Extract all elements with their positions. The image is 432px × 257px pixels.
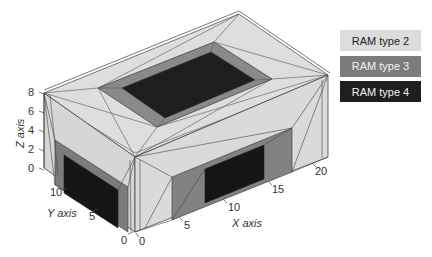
legend: RAM type 2 RAM type 3 RAM type 4 [340,30,421,107]
y-axis-label: Y axis [47,207,77,219]
x-tick-10: 10 [228,201,240,213]
z-tick-0: 0 [28,162,34,174]
y-tick-5: 5 [89,210,95,222]
legend-item-ram-type-2: RAM type 2 [340,30,421,51]
y-tick-10: 10 [50,186,62,198]
y-tick-0: 0 [121,234,127,246]
z-tick-2: 2 [28,143,34,155]
legend-item-ram-type-3: RAM type 3 [340,56,421,77]
z-axis-label: Z axis [14,118,26,149]
legend-label: RAM type 3 [352,60,409,72]
x-tick-20: 20 [315,165,327,177]
x-tick-0: 0 [139,235,145,247]
legend-label: RAM type 4 [352,86,409,98]
legend-label: RAM type 2 [352,35,409,47]
legend-item-ram-type-4: RAM type 4 [340,81,421,102]
x-tick-15: 15 [272,183,284,195]
x-axis-label: X axis [231,217,262,229]
z-tick-6: 6 [28,105,34,117]
x-tick-5: 5 [184,219,190,231]
z-tick-8: 8 [28,86,34,98]
z-tick-4: 4 [28,124,34,136]
z-axis: 8 6 4 2 0 Z axis [14,86,44,174]
